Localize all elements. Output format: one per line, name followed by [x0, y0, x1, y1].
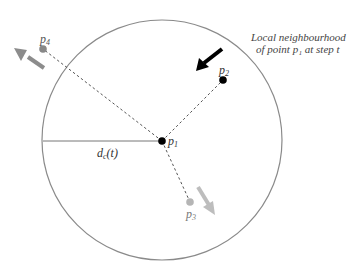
dashed-link-p1-p4 — [43, 49, 162, 141]
point-p3 — [186, 198, 194, 206]
arrow-p4-icon — [14, 48, 44, 68]
label-p4: p4 — [39, 32, 50, 47]
point-p1 — [158, 137, 166, 145]
arrow-p3-icon — [198, 187, 215, 215]
label-p3: p3 — [185, 207, 196, 222]
label-p2: p2 — [218, 63, 229, 78]
caption-line-2: of point p₁ at step t — [256, 43, 341, 55]
dashed-link-p1-p2 — [162, 80, 223, 141]
neighbourhood-diagram: p1 p2 p3 p4 dc(t) Local neighbourhood of… — [0, 0, 359, 272]
radius-label: dc(t) — [97, 146, 118, 161]
label-p1: p1 — [167, 134, 178, 149]
dashed-link-p1-p3 — [162, 141, 190, 202]
caption-line-1: Local neighbourhood — [250, 31, 346, 43]
